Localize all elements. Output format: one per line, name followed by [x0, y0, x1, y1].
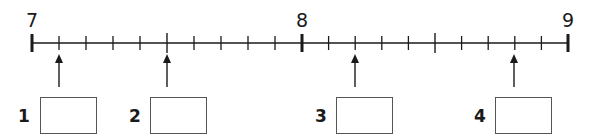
question-label-2: 2	[129, 108, 141, 125]
answer-box-3[interactable]	[336, 97, 393, 134]
answer-box-4[interactable]	[495, 97, 552, 134]
label-8: 8	[296, 11, 308, 30]
answer-box-1[interactable]	[40, 97, 97, 134]
arrow-up-icon	[55, 54, 63, 63]
arrow-up-icon	[163, 54, 171, 63]
question-label-1: 1	[18, 108, 30, 125]
arrow-up-icon	[510, 54, 518, 63]
arrow-up-icon	[351, 54, 359, 63]
label-9: 9	[562, 11, 574, 30]
label-7: 7	[26, 11, 38, 30]
answer-box-2[interactable]	[150, 97, 207, 134]
number-line-worksheet: 7 8 9 1 2 3 4	[0, 0, 594, 138]
question-label-3: 3	[315, 108, 327, 125]
question-label-4: 4	[474, 108, 486, 125]
